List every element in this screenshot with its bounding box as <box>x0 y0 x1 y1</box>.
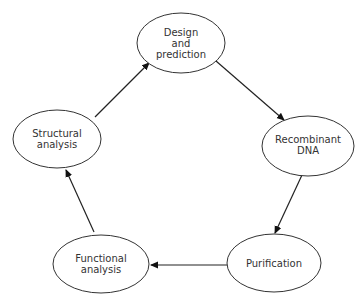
node-label-line: analysis <box>81 264 122 275</box>
arrow-design-to-recombinant <box>216 61 284 120</box>
node-label-line: Structural <box>32 128 82 139</box>
arrow-structural-to-design <box>95 63 149 117</box>
node-purification: Purification <box>227 234 321 292</box>
node-label-line: prediction <box>156 49 206 60</box>
node-functional-analysis: Functional analysis <box>53 235 149 293</box>
cycle-diagram: Design and prediction Recombinant DNA Pu… <box>0 0 363 305</box>
node-label-line: Recombinant <box>275 134 341 145</box>
node-label-line: DNA <box>297 145 319 156</box>
arrow-functional-to-structural <box>66 170 94 232</box>
node-structural-analysis: Structural analysis <box>13 110 101 168</box>
node-label-line: and <box>172 38 191 49</box>
arrow-recombinant-to-purification <box>275 175 302 233</box>
node-design-and-prediction: Design and prediction <box>137 13 225 73</box>
node-label-line: Functional <box>75 253 126 264</box>
node-label-line: Design <box>164 27 199 38</box>
node-label-line: analysis <box>37 139 78 150</box>
node-recombinant-dna: Recombinant DNA <box>262 116 354 176</box>
node-label-line: Purification <box>246 258 302 269</box>
